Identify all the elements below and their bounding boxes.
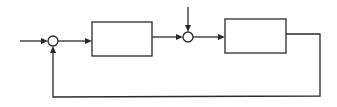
arrowhead-icon [41, 38, 48, 44]
summing-junction-2 [183, 32, 193, 42]
block-1 [92, 22, 152, 56]
summing-junction-1 [48, 36, 58, 46]
block-2 [225, 19, 286, 53]
arrowhead-icon [185, 25, 191, 32]
arrowhead-icon [85, 38, 92, 44]
connector-sum1-block1 [58, 38, 92, 44]
connector-sum2-block2 [193, 34, 225, 40]
arrowhead-icon [218, 34, 225, 40]
input-arrow [20, 38, 48, 44]
connector-block1-sum2 [152, 34, 183, 40]
arrowhead-icon [50, 46, 56, 53]
arrowhead-icon [176, 34, 183, 40]
disturbance-arrow [185, 7, 191, 32]
block-diagram [0, 0, 337, 107]
